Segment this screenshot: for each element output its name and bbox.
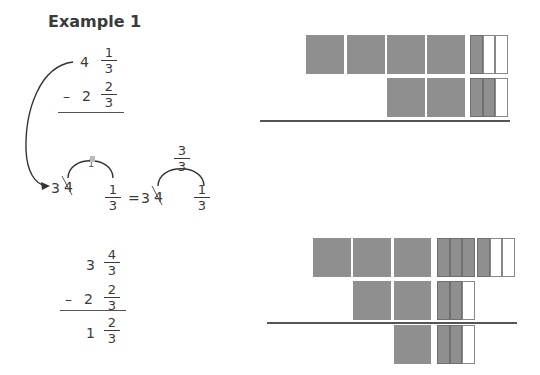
regroup-arc-left (68, 161, 113, 178)
third-strip-empty (483, 35, 496, 74)
whole-block (387, 35, 425, 74)
whole-block (306, 35, 344, 74)
third-strip-empty (462, 325, 475, 364)
whole-block (353, 281, 391, 320)
model-subtraction-line (260, 120, 510, 122)
arrowhead-icon (41, 182, 50, 190)
strikethrough-left (62, 176, 72, 195)
third-strip-shaded (437, 281, 450, 320)
third-strip-empty (495, 78, 508, 117)
whole-block (387, 78, 425, 117)
curved-arrow (26, 62, 73, 186)
whole-block (313, 238, 351, 277)
third-strip-shaded (470, 35, 483, 74)
whole-block (427, 35, 465, 74)
whole-block (427, 78, 465, 117)
third-strip-shaded (483, 78, 496, 117)
third-strip-shaded (450, 238, 463, 277)
whole-block (353, 238, 391, 277)
third-strip-shaded (477, 238, 490, 277)
borrow-marker (90, 156, 95, 162)
whole-block (394, 238, 431, 277)
third-strip-empty (462, 281, 475, 320)
third-strip-shaded (462, 238, 475, 277)
third-strip-shaded (450, 281, 463, 320)
whole-block (347, 35, 385, 74)
whole-block (394, 281, 431, 320)
third-strip-shaded (437, 238, 450, 277)
whole-block (394, 325, 431, 364)
strikethrough-right (152, 186, 162, 205)
regroup-arc-right (158, 169, 204, 186)
third-strip-empty (490, 238, 503, 277)
third-strip-empty (502, 238, 515, 277)
third-strip-shaded (437, 325, 450, 364)
model-subtraction-line (267, 322, 517, 324)
third-strip-empty (495, 35, 508, 74)
third-strip-shaded (450, 325, 463, 364)
third-strip-shaded (470, 78, 483, 117)
